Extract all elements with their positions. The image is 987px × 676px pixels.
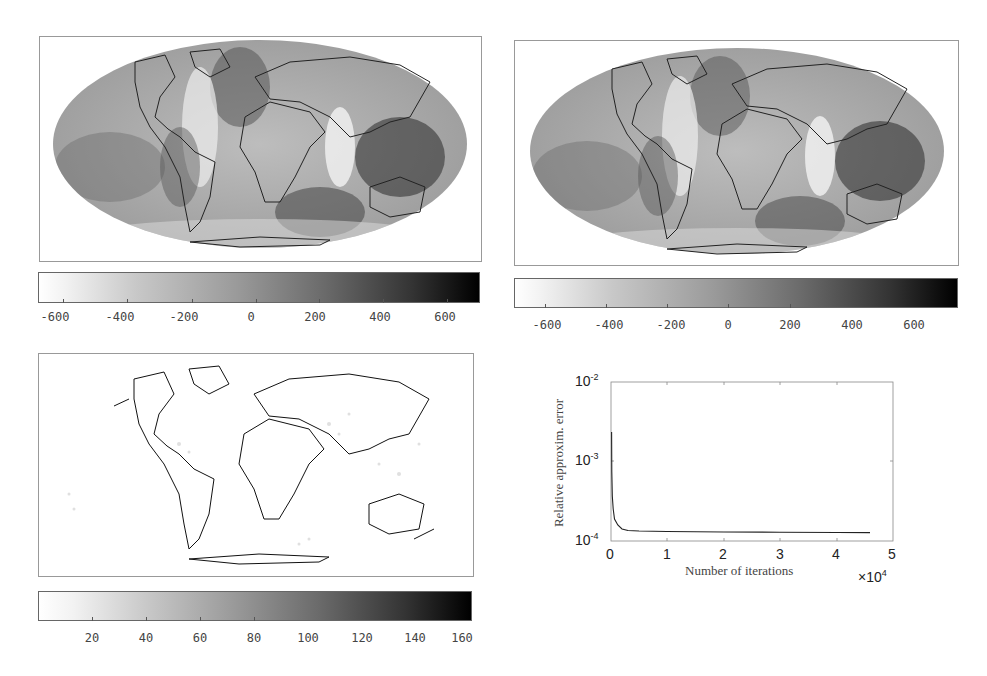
x-tick-label: 4 <box>832 546 840 562</box>
x-tick-label: 3 <box>776 546 784 562</box>
x-axis-label: Number of iterations <box>685 563 793 579</box>
y-tick-label: 10-2 <box>575 372 599 389</box>
x-tick-label: 2 <box>719 546 727 562</box>
x-multiplier-label: ×104 <box>858 568 887 585</box>
y-tick-label: 10-3 <box>575 451 599 468</box>
y-tick-label: 10-4 <box>575 531 599 548</box>
x-tick-label: 5 <box>888 546 896 562</box>
x-tick-label: 1 <box>663 546 671 562</box>
error-line-chart <box>0 0 987 676</box>
x-tick-label: 0 <box>606 546 614 562</box>
y-axis-label: Relative approxim. error <box>551 388 567 538</box>
